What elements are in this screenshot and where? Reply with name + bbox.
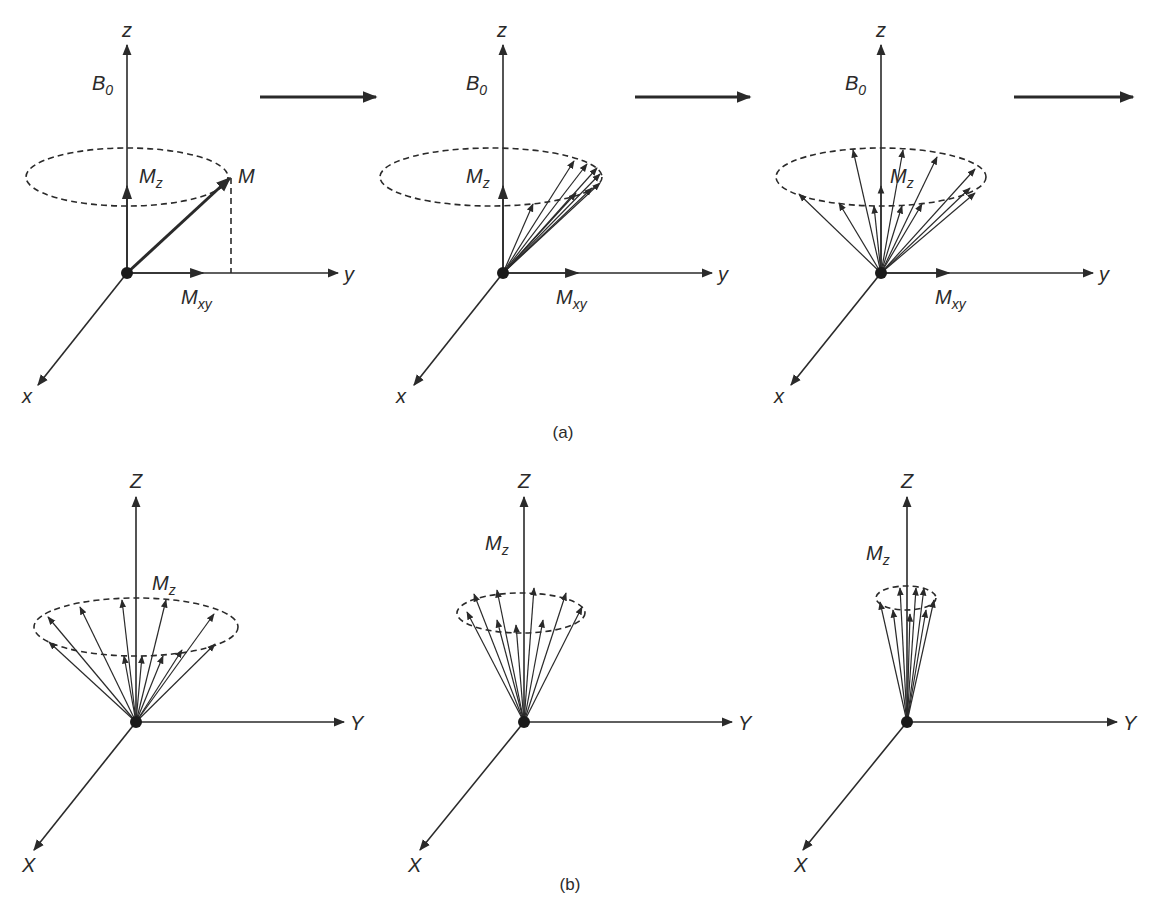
mz-label: Mz xyxy=(485,532,509,558)
x-axis xyxy=(803,722,907,850)
z-label: Z xyxy=(900,470,914,492)
x-axis xyxy=(420,722,524,850)
panel-b1: Z Mz Y X xyxy=(21,470,365,876)
m-vector xyxy=(127,178,230,273)
origin-dot xyxy=(130,716,142,728)
x-label: x xyxy=(773,385,785,407)
z-label: z xyxy=(496,19,507,41)
x-axis xyxy=(791,273,881,385)
m-label: M xyxy=(238,165,255,187)
origin-dot xyxy=(518,716,530,728)
mz-label: Mz xyxy=(152,572,176,598)
panel-a1: z B0 Mz M y Mxy x xyxy=(21,19,355,407)
y-label: Y xyxy=(738,712,753,734)
x-label: x xyxy=(21,385,33,407)
mxy-label: Mxy xyxy=(935,286,967,312)
precession-ellipse xyxy=(876,586,936,610)
spin-vectors xyxy=(48,600,215,722)
b0-label: B0 xyxy=(845,72,866,98)
mxy-label: Mxy xyxy=(181,286,213,312)
panel-a3: z B0 Mz y Mxy x xyxy=(773,19,1110,407)
spin-vectors xyxy=(799,150,975,273)
origin-dot xyxy=(497,267,509,279)
z-label: Z xyxy=(517,470,531,492)
x-axis xyxy=(414,273,503,385)
mz-label: Mz xyxy=(866,542,890,568)
origin-dot xyxy=(875,267,887,279)
precession-diagram: z B0 Mz M y Mxy x z B0 Mz y Mxy x xyxy=(0,0,1154,909)
panel-a2: z B0 Mz y Mxy x xyxy=(380,19,729,407)
caption-b: (b) xyxy=(560,875,581,894)
origin-dot xyxy=(901,716,913,728)
mxy-label: Mxy xyxy=(556,286,588,312)
z-label: z xyxy=(875,19,886,41)
mz-label: Mz xyxy=(890,165,914,191)
y-label: Y xyxy=(350,712,365,734)
precession-ellipse xyxy=(380,148,602,206)
x-label: X xyxy=(793,854,808,876)
origin-dot xyxy=(121,267,133,279)
x-label: X xyxy=(407,854,422,876)
x-label: X xyxy=(21,854,36,876)
mz-label: Mz xyxy=(466,165,490,191)
panel-b2: Z Mz Y X xyxy=(407,470,753,876)
z-label: z xyxy=(121,19,132,41)
y-label: y xyxy=(716,263,729,285)
b0-label: B0 xyxy=(92,72,113,98)
panel-b3: Z Mz Y X xyxy=(793,470,1138,876)
spin-vectors xyxy=(503,161,600,273)
b0-label: B0 xyxy=(466,72,487,98)
x-label: x xyxy=(395,385,407,407)
mz-label: Mz xyxy=(139,165,163,191)
z-label: Z xyxy=(129,470,143,492)
x-axis xyxy=(38,273,127,385)
y-label: y xyxy=(1097,263,1110,285)
y-label: Y xyxy=(1123,712,1138,734)
caption-a: (a) xyxy=(553,423,574,442)
y-label: y xyxy=(342,263,355,285)
x-axis xyxy=(34,722,136,850)
